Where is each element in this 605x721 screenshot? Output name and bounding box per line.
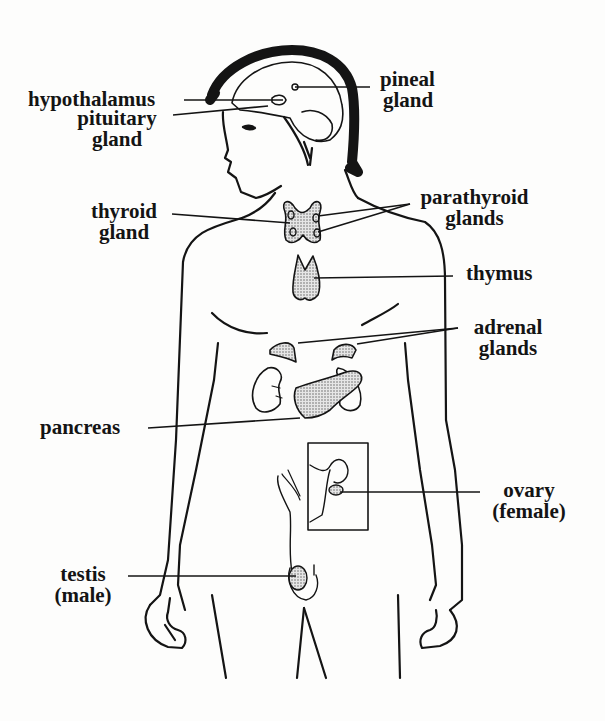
vas-deferens: [278, 476, 292, 572]
left-kidney: [253, 368, 282, 412]
label-parathyroid-glands: parathyroid glands: [412, 187, 537, 229]
hair: [212, 50, 358, 172]
label-pineal-gland: pineal gland: [380, 69, 435, 111]
left-adrenal: [270, 343, 296, 362]
right-adrenal: [332, 344, 356, 360]
label-thymus: thymus: [466, 263, 533, 284]
ovary: [329, 485, 343, 495]
face-profile: [223, 112, 281, 198]
testis: [289, 566, 307, 590]
label-ovary-female: ovary (female): [484, 480, 574, 522]
label-adrenal-glands: adrenal glands: [468, 317, 548, 359]
eye: [243, 126, 255, 130]
label-testis-male: testis (male): [46, 564, 120, 606]
label-pancreas: pancreas: [40, 417, 120, 438]
label-thyroid-gland: thyroid gland: [82, 201, 166, 243]
head-outline: [210, 50, 358, 198]
label-pituitary-gland: pituitary gland: [62, 108, 172, 150]
